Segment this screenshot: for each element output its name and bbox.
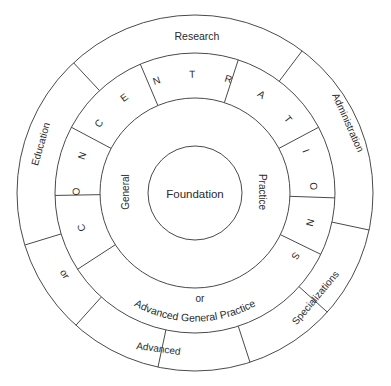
concentration-ring-divider — [280, 235, 320, 255]
outer-ring-divider — [74, 63, 100, 91]
diagram-svg: Foundation General Practice or Advanced … — [0, 0, 391, 386]
concentrations-letter: C — [75, 223, 88, 233]
concentrations-letter: O — [308, 182, 319, 191]
outer-ring-divider — [25, 234, 61, 245]
foundation-label: Foundation — [166, 188, 224, 200]
concentric-curriculum-diagram: Foundation General Practice or Advanced … — [0, 0, 391, 386]
or-label-inner: or — [196, 293, 206, 304]
concentrations-letter: N — [151, 74, 161, 87]
concentration-ring-divider — [290, 196, 335, 198]
or-label-outer: or — [58, 267, 72, 281]
concentrations-letter: T — [189, 69, 195, 80]
administration-label: Administration — [330, 91, 366, 153]
concentrations-letter: N — [76, 151, 89, 161]
general-label: General — [120, 174, 131, 210]
concentration-ring-divider — [71, 127, 111, 148]
concentrations-letter: O — [71, 188, 82, 196]
concentration-ring-dividers — [55, 60, 335, 269]
concentration-ring-divider — [279, 127, 319, 148]
concentrations-letter: A — [256, 88, 268, 101]
education-label: Education — [29, 121, 52, 167]
outer-ring-divider — [238, 326, 250, 362]
advanced-label: Advanced — [136, 340, 182, 357]
concentrations-letter: R — [223, 73, 233, 86]
outer-ring-divider — [76, 297, 101, 325]
outer-ring-divider — [332, 222, 369, 230]
concentrations-letter: S — [289, 250, 302, 262]
outer-ring-divider — [279, 51, 302, 81]
concentrations-letter: T — [282, 113, 294, 125]
research-label: Research — [175, 30, 220, 42]
concentrations-letter: C — [92, 117, 105, 129]
practice-label: Practice — [257, 174, 268, 211]
concentration-ring-divider — [78, 245, 116, 270]
concentrations-letter: E — [118, 91, 130, 104]
concentrations-letter: N — [304, 218, 316, 228]
concentrations-letter: I — [300, 147, 311, 154]
specializations-label: Specializations — [290, 269, 341, 327]
